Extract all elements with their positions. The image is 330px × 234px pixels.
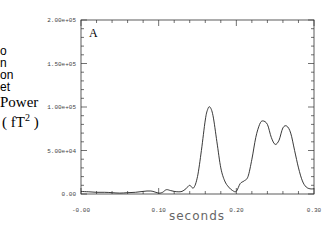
plot-frame	[81, 20, 314, 194]
x-tick-label: 0.30	[307, 207, 322, 214]
power-series-line	[81, 107, 314, 193]
x-axis-label: seconds	[169, 209, 225, 223]
x-tick-label: -0.00	[72, 207, 90, 214]
tick-labels: 0.005.00e+041.00e+051.50e+052.00e+05-0.0…	[47, 17, 321, 214]
y-tick-label: 1.00e+05	[47, 104, 76, 111]
y-tick-label: 2.00e+05	[47, 17, 76, 24]
panel-label: A	[89, 26, 98, 40]
y-tick-label: 0.00	[62, 191, 77, 198]
plot-border	[81, 20, 314, 194]
y-tick-label: 5.00e+04	[47, 148, 76, 155]
y-tick-label: 1.50e+05	[47, 61, 76, 68]
x-tick-label: 0.10	[151, 207, 166, 214]
x-tick-label: 0.20	[229, 207, 244, 214]
power-line-chart: A 0.005.00e+041.00e+051.50e+052.00e+05-0…	[0, 0, 330, 234]
